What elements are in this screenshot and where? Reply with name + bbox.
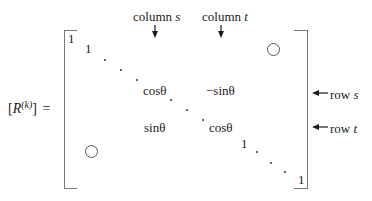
right-bracket-top [294, 30, 308, 31]
entry-ts-sin: sinθ [144, 121, 165, 134]
entry-tt-cos: cosθ [209, 121, 233, 134]
right-bracket-bottom [294, 188, 308, 189]
zero-block-lower-left-icon [85, 145, 98, 158]
column-s-arrow-icon [152, 25, 158, 38]
diag-dot [120, 69, 122, 71]
entry-diag-1: 1 [68, 32, 75, 45]
left-bracket-vertical [64, 30, 65, 189]
diag-dot [104, 59, 106, 61]
rotation-matrix-diagram: [R(k)] = column s column t row s row t [0, 0, 372, 201]
right-bracket-vertical [307, 30, 308, 189]
diag-dot [284, 171, 286, 173]
diag-dot [202, 119, 204, 121]
entry-st-neg-sin: −sinθ [206, 84, 235, 97]
diag-dot [256, 151, 258, 153]
entry-diag-last: 1 [298, 173, 305, 186]
entry-ss-cos: cosθ [143, 84, 167, 97]
entry-diag-after-t: 1 [241, 137, 248, 150]
column-t-arrow-icon [218, 25, 224, 38]
zero-block-upper-right-icon [267, 43, 280, 56]
diag-dot [186, 109, 188, 111]
left-bracket-bottom [64, 188, 77, 189]
diag-dot [170, 99, 172, 101]
diag-dot [270, 162, 272, 164]
arrows [0, 0, 372, 201]
row-t-arrow-icon [312, 124, 328, 130]
entry-diag-2: 1 [85, 42, 92, 55]
diag-dot [136, 79, 138, 81]
row-s-arrow-icon [312, 90, 328, 96]
